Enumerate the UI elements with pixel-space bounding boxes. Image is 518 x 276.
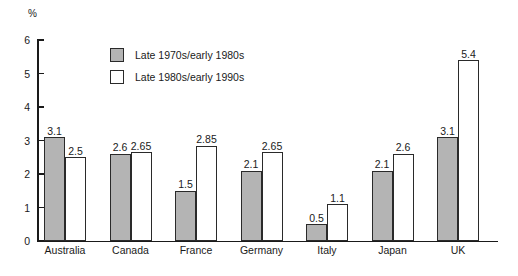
bar-group: 2.12.6 (372, 40, 414, 241)
bar[interactable]: 1.5 (175, 191, 196, 241)
bar-value-label: 3.1 (440, 126, 455, 137)
legend-swatch-icon-series-0 (110, 48, 124, 62)
bar-value-label: 2.65 (131, 141, 151, 152)
bar[interactable]: 2.1 (241, 171, 262, 241)
bar[interactable]: 2.5 (65, 157, 86, 241)
bar[interactable]: 2.6 (110, 154, 131, 241)
bar-group: 0.51.1 (306, 40, 348, 241)
bar[interactable]: 2.65 (131, 152, 152, 241)
bar-group: 3.15.4 (437, 40, 479, 241)
bar[interactable]: 1.1 (327, 204, 348, 241)
x-axis-label: France (180, 245, 213, 256)
x-axis-label: Germany (240, 245, 283, 256)
bar[interactable]: 3.1 (437, 137, 458, 241)
bar[interactable]: 2.1 (372, 171, 393, 241)
y-axis-tick-label: 4 (8, 102, 30, 113)
x-axis-label: UK (451, 245, 466, 256)
bar-value-label: 0.5 (309, 213, 324, 224)
x-axis-label: Australia (45, 245, 86, 256)
bar[interactable]: 2.65 (262, 152, 283, 241)
legend-swatch-icon-series-1 (110, 70, 124, 84)
legend-label-series-0: Late 1970s/early 1980s (135, 50, 244, 61)
y-axis-tick-label: 2 (8, 169, 30, 180)
bar-value-label: 2.5 (68, 146, 83, 157)
plot-area: 3.12.52.62.651.52.852.12.650.51.12.12.63… (37, 40, 498, 241)
bar-value-label: 5.4 (461, 49, 476, 60)
bar[interactable]: 5.4 (458, 60, 479, 241)
y-axis-tick-label: 1 (8, 203, 30, 214)
x-axis-label: Japan (378, 245, 407, 256)
bar[interactable]: 2.85 (196, 146, 217, 241)
bar-value-label: 1.1 (330, 193, 345, 204)
bar-chart: % 0123456 3.12.52.62.651.52.852.12.650.5… (0, 0, 518, 276)
x-axis-label: Italy (317, 245, 336, 256)
bar-value-label: 2.1 (375, 159, 390, 170)
bar-value-label: 2.6 (113, 142, 128, 153)
bar-value-label: 2.65 (262, 141, 282, 152)
bar-group: 2.12.65 (241, 40, 283, 241)
chart-legend: Late 1970s/early 1980s Late 1980s/early … (110, 44, 244, 88)
bar[interactable]: 2.6 (393, 154, 414, 241)
legend-item-series-1: Late 1980s/early 1990s (110, 66, 244, 88)
bar-value-label: 2.1 (244, 159, 259, 170)
bar-group: 3.12.5 (44, 40, 86, 241)
legend-item-series-0: Late 1970s/early 1980s (110, 44, 244, 66)
bar[interactable]: 3.1 (44, 137, 65, 241)
y-axis-tick-label: 6 (8, 35, 30, 46)
y-axis-unit-label: % (28, 9, 37, 19)
bar-value-label: 3.1 (47, 126, 62, 137)
bar-value-label: 2.85 (196, 134, 216, 145)
y-axis-tick-label: 3 (8, 136, 30, 147)
bar-value-label: 1.5 (178, 179, 193, 190)
bar-value-label: 2.6 (396, 142, 411, 153)
y-axis-tick-label: 5 (8, 69, 30, 80)
bar[interactable]: 0.5 (306, 224, 327, 241)
x-axis-label: Canada (112, 245, 149, 256)
legend-label-series-1: Late 1980s/early 1990s (135, 72, 244, 83)
y-axis-tick-label: 0 (8, 236, 30, 247)
